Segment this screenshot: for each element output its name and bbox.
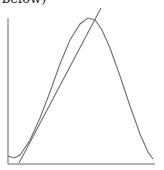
plot-area <box>0 0 164 170</box>
bell-curve <box>8 18 153 159</box>
tangent-line <box>19 8 101 163</box>
